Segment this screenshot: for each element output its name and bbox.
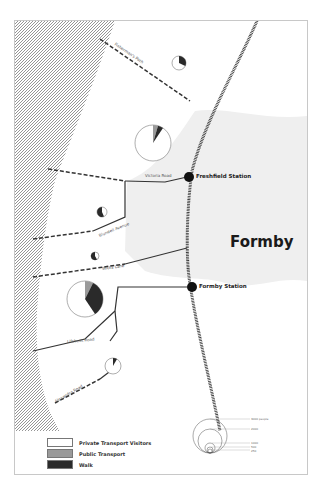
scale-label-3000: 3000 people: [251, 417, 269, 421]
pie-chart-lifeboat: [67, 281, 103, 317]
legend-item-walk: Walk: [47, 460, 93, 469]
legend-swatch-walk: [47, 460, 73, 469]
road-formby-link: [110, 287, 187, 341]
road-victoria-road: [48, 169, 125, 181]
pie-chart-blundell: [97, 207, 107, 217]
pie-chart-alexandra: [105, 358, 121, 374]
formby-station-label: Formby Station: [199, 283, 247, 289]
road-label-victoria-road: Victoria Road: [145, 173, 172, 178]
legend-label-public: Public Transport: [79, 451, 125, 457]
scale-circles: [193, 419, 250, 453]
legend-item-private: Private Transport Visitors: [47, 438, 151, 447]
formby-station-marker: [187, 282, 197, 292]
pie-chart-fishermans: [172, 56, 186, 70]
legend-item-public: Public Transport: [47, 449, 125, 458]
coastline-hatch: [15, 21, 115, 431]
town-label: Formby: [230, 233, 294, 251]
map-frame: Freshfield Station Formby Station Formby…: [14, 20, 308, 475]
legend-swatch-private: [47, 438, 73, 447]
pie-chart-wicks: [91, 252, 99, 260]
legend-label-walk: Walk: [79, 462, 93, 468]
freshfield-station-marker: [184, 172, 194, 182]
road-lifeboat-road: [33, 311, 115, 351]
scale-label-250: 250: [251, 449, 256, 453]
pie-chart-victoria: [135, 125, 171, 161]
road-fishermans-path: [100, 39, 190, 101]
legend-swatch-public: [47, 449, 73, 458]
legend-label-private: Private Transport Visitors: [79, 440, 151, 446]
freshfield-station-label: Freshfield Station: [196, 173, 251, 179]
scale-label-2000: 2000: [251, 427, 258, 431]
